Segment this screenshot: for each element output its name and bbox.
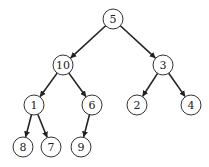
node-label: 1	[31, 99, 38, 112]
edge-arrow-n5-n3	[120, 26, 155, 58]
tree-diagram: 51031624879	[0, 0, 209, 167]
node-label: 7	[48, 141, 55, 154]
edge-arrow-n1-n8	[26, 115, 32, 137]
node-label: 10	[56, 59, 70, 72]
tree-node-9: 9	[71, 137, 91, 157]
tree-node-7: 7	[41, 137, 61, 157]
tree-node-6: 6	[82, 95, 102, 115]
edge-arrow-n3-n4	[169, 73, 185, 96]
tree-node-3: 3	[153, 55, 173, 75]
node-label: 2	[134, 99, 141, 112]
tree-node-1: 1	[24, 95, 44, 115]
tree-edges	[26, 26, 185, 137]
tree-node-2: 2	[127, 95, 147, 115]
edge-arrow-n5-n10	[71, 26, 106, 58]
node-label: 3	[160, 59, 167, 72]
edge-arrow-n3-n2	[143, 73, 158, 96]
tree-nodes: 51031624879	[13, 9, 201, 157]
tree-node-5: 5	[103, 9, 123, 29]
node-label: 5	[110, 13, 117, 26]
node-label: 4	[188, 99, 195, 112]
node-label: 8	[20, 141, 27, 154]
edge-arrow-n10-n1	[40, 73, 57, 96]
edge-arrow-n1-n7	[38, 114, 47, 137]
tree-node-4: 4	[181, 95, 201, 115]
tree-node-10: 10	[53, 55, 73, 75]
edge-arrow-n6-n9	[84, 115, 90, 137]
tree-node-8: 8	[13, 137, 33, 157]
node-label: 9	[78, 141, 85, 154]
edge-arrow-n10-n6	[69, 73, 86, 96]
node-label: 6	[89, 99, 96, 112]
